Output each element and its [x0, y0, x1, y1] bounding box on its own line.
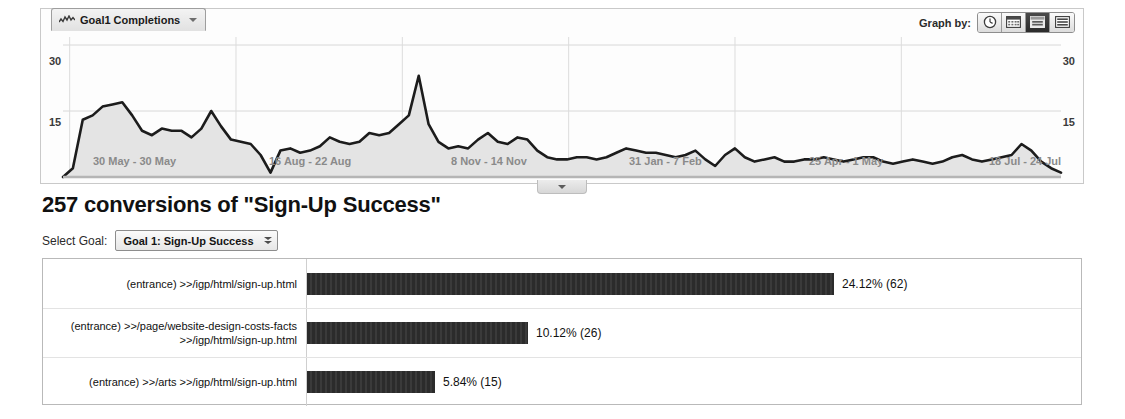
goal-paths-bar-chart: (entrance) >>/igp/html/sign-up.html 24.1… — [42, 258, 1082, 405]
bar-track: 5.84% (15) — [307, 358, 1081, 406]
bar-label: (entrance) >>/igp/html/sign-up.html — [43, 277, 306, 291]
bar-fill — [307, 273, 834, 295]
chevron-down-icon[interactable] — [189, 18, 197, 22]
page-title: 257 conversions of "Sign-Up Success" — [42, 192, 441, 218]
y-axis-label-right-15: 15 — [1063, 116, 1075, 128]
bar-value-label: 5.84% (15) — [443, 375, 502, 389]
bar-fill — [307, 371, 435, 393]
graph-by-toolbar: Graph by: — [919, 12, 1075, 33]
select-goal-label: Select Goal: — [42, 234, 107, 248]
y-axis-label-right-30: 30 — [1063, 55, 1075, 67]
bar-label: (entrance) >>/arts >>/igp/html/sign-up.h… — [43, 375, 306, 389]
table-row[interactable]: (entrance) >>/igp/html/sign-up.html 24.1… — [43, 259, 1081, 308]
x-axis-label-0: 30 May - 30 May — [93, 155, 176, 167]
metric-tab-label: Goal1 Completions — [80, 14, 180, 26]
graph-by-day-button[interactable] — [1002, 13, 1026, 32]
x-axis-label-5: 18 Jul - 24 Jul — [989, 155, 1061, 167]
month-lines-icon — [1055, 16, 1070, 30]
bar-label: (entrance) >>/page/website-design-costs-… — [43, 319, 306, 347]
x-axis-label-4: 25 Apr - 1 May — [809, 155, 883, 167]
metric-tab-goal1-completions[interactable]: Goal1 Completions — [51, 8, 206, 31]
graph-by-month-button[interactable] — [1050, 13, 1074, 32]
graph-by-label: Graph by: — [919, 17, 971, 29]
timeline-chart[interactable]: 30 15 30 15 30 May - 30 May 16 Aug - 22 … — [41, 31, 1083, 183]
table-row[interactable]: (entrance) >>/page/website-design-costs-… — [43, 308, 1081, 357]
week-calendar-icon — [1030, 16, 1045, 30]
timeline-panel: Goal1 Completions Graph by: — [40, 8, 1084, 184]
goal-picker: Select Goal: Goal 1: Sign-Up Success — [42, 230, 278, 251]
x-axis-label-3: 31 Jan - 7 Feb — [629, 155, 702, 167]
y-axis-label-left-15: 15 — [49, 116, 61, 128]
graph-by-buttons — [977, 12, 1075, 33]
day-grid-icon — [1006, 16, 1021, 30]
timeline-plot-area — [41, 31, 1083, 183]
analytics-goal-report: Goal1 Completions Graph by: — [0, 0, 1125, 419]
x-axis-label-1: 16 Aug - 22 Aug — [269, 155, 351, 167]
graph-by-hour-button[interactable] — [978, 13, 1002, 32]
goal-select-value: Goal 1: Sign-Up Success — [123, 235, 253, 247]
table-row[interactable]: (entrance) >>/arts >>/igp/html/sign-up.h… — [43, 357, 1081, 406]
graph-by-week-button[interactable] — [1026, 13, 1050, 32]
bar-value-label: 24.12% (62) — [842, 277, 907, 291]
goal-select-dropdown[interactable]: Goal 1: Sign-Up Success — [115, 230, 277, 251]
timeline-collapse-handle[interactable] — [537, 180, 587, 194]
y-axis-label-left-30: 30 — [49, 55, 61, 67]
double-chevron-icon — [264, 237, 272, 244]
bar-track: 24.12% (62) — [307, 259, 1081, 308]
sparkline-icon — [59, 15, 75, 24]
bar-value-label: 10.12% (26) — [536, 326, 601, 340]
x-axis-label-2: 8 Nov - 14 Nov — [451, 155, 527, 167]
collapse-chevron-icon — [558, 185, 566, 189]
bar-track: 10.12% (26) — [307, 309, 1081, 357]
bar-fill — [307, 322, 528, 344]
clock-icon — [983, 15, 997, 31]
